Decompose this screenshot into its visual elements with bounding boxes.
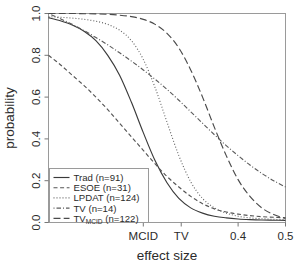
legend: Trad (n=91)ESOE (n=31)LPDAT (n=124)TV (n… <box>50 169 149 225</box>
probability-vs-effect-size-chart: 0.00.20.40.60.81.0MCIDTV0.40.5effect siz… <box>0 0 301 269</box>
y-axis: 0.00.20.40.60.81.0 <box>30 6 49 231</box>
x-tick-label: 0.5 <box>278 230 294 242</box>
x-tick-label: 0.4 <box>230 230 247 242</box>
x-tick-label: TV <box>174 230 189 242</box>
x-axis: MCIDTV0.40.5 <box>129 223 294 242</box>
series-line-3 <box>49 14 286 187</box>
y-tick-label: 0.2 <box>30 173 42 189</box>
y-tick-label: 1.0 <box>30 6 42 22</box>
chart-figure: 0.00.20.40.60.81.0MCIDTV0.40.5effect siz… <box>0 0 301 269</box>
x-axis-title: effect size <box>137 248 198 263</box>
y-axis-title: probability <box>2 87 17 149</box>
y-tick-label: 0.4 <box>30 130 42 147</box>
y-tick-label: 0.0 <box>30 215 42 231</box>
y-tick-label: 0.8 <box>30 47 42 63</box>
legend-label-subscript: MCID <box>86 218 103 225</box>
x-tick-label: MCID <box>129 230 158 242</box>
y-tick-label: 0.6 <box>30 89 42 105</box>
legend-label-4: TVMCID (n=122) <box>74 213 139 225</box>
